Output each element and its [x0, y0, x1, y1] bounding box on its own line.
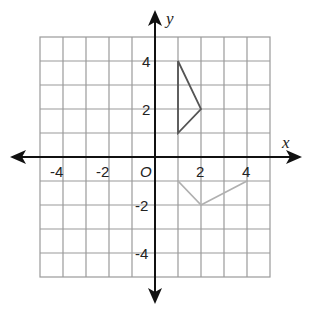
coordinate-plane: y x -4 -2 O 2 4 4 2 -2 -4	[0, 0, 314, 314]
y-tick-label: 4	[142, 53, 150, 70]
original-figure	[178, 61, 201, 133]
x-tick-label: 2	[196, 163, 204, 180]
x-tick-label: -2	[96, 163, 109, 180]
y-tick-label: 2	[142, 101, 150, 118]
x-axis-label: x	[281, 133, 290, 152]
y-tick-label: -4	[135, 245, 148, 262]
x-tick-label: -4	[50, 163, 63, 180]
transformed-figure	[178, 181, 247, 205]
origin-label: O	[140, 163, 152, 180]
y-axis-label: y	[164, 9, 174, 28]
x-tick-label: 4	[242, 163, 250, 180]
y-tick-label: -2	[135, 197, 148, 214]
